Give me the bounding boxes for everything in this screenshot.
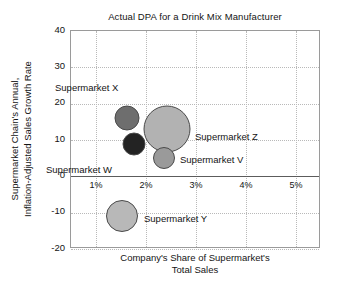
gridline-horizontal [71, 249, 319, 250]
zero-axis-line [71, 176, 319, 177]
point-label-supermarket-x: Supermarket X [55, 82, 118, 93]
bubble-chart-figure: Actual DPA for a Drink Mix Manufacturer … [0, 0, 338, 289]
point-label-supermarket-v: Supermarket V [180, 154, 243, 165]
y-tick-label: -20 [0, 242, 65, 253]
bubble-supermarket-w[interactable] [123, 132, 146, 155]
x-tick-label: 5% [289, 180, 302, 190]
x-tick-label: 3% [189, 180, 202, 190]
x-tick-label: 1% [89, 180, 102, 190]
gridline-horizontal [71, 67, 319, 68]
bubble-supermarket-x[interactable] [115, 106, 140, 131]
x-tick-label: 2% [139, 180, 152, 190]
x-axis-title: Company's Share of Supermarket's Total S… [70, 252, 320, 276]
y-tick-label: 30 [0, 60, 65, 71]
y-tick-label: 20 [0, 96, 65, 107]
point-label-supermarket-y: Supermarket Y [144, 213, 207, 224]
y-tick-label: 40 [0, 24, 65, 35]
bubble-supermarket-y[interactable] [106, 200, 138, 232]
point-label-supermarket-w: Supermarket W [46, 164, 112, 175]
bubble-supermarket-v[interactable] [153, 147, 175, 169]
gridline-vertical [96, 31, 97, 247]
chart-title: Actual DPA for a Drink Mix Manufacturer [70, 11, 320, 22]
gridline-horizontal [71, 104, 319, 105]
gridline-vertical [296, 31, 297, 247]
y-tick-label: -10 [0, 205, 65, 216]
y-tick-label: 10 [0, 133, 65, 144]
plot-area: 1%2%3%4%5% Supermarket XSupermarket WSup… [70, 30, 320, 248]
bubble-supermarket-z[interactable] [144, 106, 191, 153]
point-label-supermarket-z: Supermarket Z [195, 131, 258, 142]
x-tick-label: 4% [239, 180, 252, 190]
